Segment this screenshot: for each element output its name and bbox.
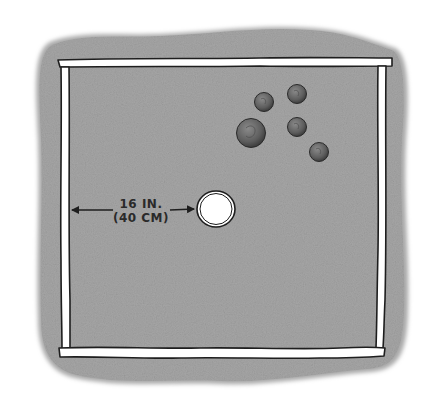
frame-right-rail [376, 66, 386, 348]
coin-4 [310, 143, 329, 162]
center-hole [197, 191, 235, 227]
frame-top-rail [58, 58, 392, 67]
coin-toss-board-illustration: 16 IN. (40 CM) [0, 0, 434, 420]
measure-label-metric: (40 CM) [113, 211, 169, 225]
measure-label-imperial: 16 IN. [120, 197, 163, 211]
frame-bottom-rail [59, 347, 385, 358]
coin-large [237, 119, 266, 148]
coin-1 [255, 93, 274, 112]
coin-2 [288, 85, 307, 104]
measure-arrow-right [170, 209, 194, 210]
frame-left-rail [61, 67, 70, 349]
coin-3 [288, 118, 307, 137]
